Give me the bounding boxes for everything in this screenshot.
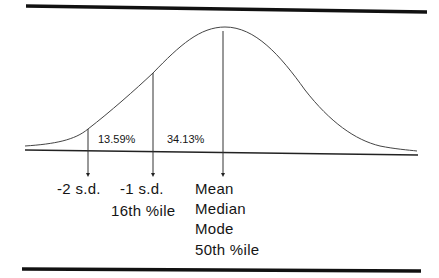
label-50th-percentile: 50th %ile <box>195 240 259 259</box>
bottom-rule <box>22 269 421 271</box>
bell-curve <box>25 27 417 151</box>
top-rule <box>26 6 427 12</box>
label-minus2sd: -2 s.d. <box>57 179 101 198</box>
label-mean: Mean <box>195 179 234 198</box>
region-label-13-59: 13.59% <box>98 133 135 145</box>
minus2sd-arrow-icon <box>86 173 90 177</box>
label-median: Median <box>195 199 246 218</box>
label-16th-percentile: 16th %ile <box>111 201 175 220</box>
minus1sd-arrow-icon <box>151 173 155 177</box>
label-minus1sd: -1 s.d. <box>120 179 164 198</box>
label-mode: Mode <box>195 219 234 238</box>
region-label-34-13: 34.13% <box>167 133 204 145</box>
mean-arrow-icon <box>221 173 225 177</box>
baseline-axis <box>25 150 418 155</box>
